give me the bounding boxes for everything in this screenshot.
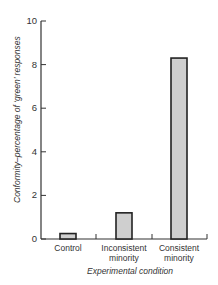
x-tick-label: Control	[38, 243, 98, 253]
y-tick-label: 2	[23, 189, 37, 200]
bar-inconsistent-minority	[116, 213, 132, 239]
x-axis-label: Experimental condition	[60, 266, 200, 276]
y-tick-label: 0	[23, 233, 37, 244]
y-tick-label: 6	[23, 102, 37, 113]
y-tick-label: 8	[23, 59, 37, 70]
y-tick-label: 4	[23, 146, 37, 157]
x-tick-label: Consistentminority	[149, 243, 209, 263]
y-tick-label: 10	[23, 15, 37, 26]
bar-control	[60, 234, 76, 239]
bar-consistent-minority	[171, 58, 187, 239]
x-tick-label: Inconsistentminority	[94, 243, 154, 263]
chart: Conformity–percentage of ‘green’ respons…	[0, 0, 218, 285]
